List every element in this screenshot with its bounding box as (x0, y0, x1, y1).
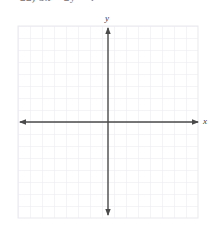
axes-group (0, 0, 216, 227)
x-axis-label: x (203, 117, 207, 126)
y-axis-arrow-bottom (105, 209, 110, 216)
x-axis (19, 119, 199, 124)
y-axis-label: y (105, 14, 109, 23)
x-axis-arrow-left (19, 119, 26, 124)
x-axis-arrow-right (192, 119, 199, 124)
coordinate-plane: y x (0, 0, 216, 227)
y-axis-arrow-top (105, 27, 110, 34)
